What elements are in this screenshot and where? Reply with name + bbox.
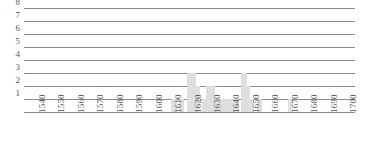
- x-tick-label-1680: 1680: [310, 67, 319, 113]
- histogram-chart: 87654321 1540155015601570158015901600161…: [0, 0, 370, 163]
- x-tick-label-1660: 1660: [271, 67, 280, 113]
- x-axis-tick-labels: 1540155015601570158015901600161016201630…: [24, 113, 355, 163]
- x-tick-label-1550: 1550: [57, 67, 66, 113]
- x-tick-label-1560: 1560: [77, 67, 86, 113]
- bars-group: [24, 8, 355, 112]
- x-tick-label-1650: 1650: [252, 67, 261, 113]
- y-tick-label-5: 5: [0, 37, 20, 46]
- y-tick-label-8: 8: [0, 0, 20, 7]
- x-tick-label-1600: 1600: [155, 67, 164, 113]
- x-tick-label-1690: 1690: [330, 67, 339, 113]
- x-tick-label-1630: 1630: [213, 67, 222, 113]
- x-tick-label-1640: 1640: [232, 67, 241, 113]
- y-tick-label-7: 7: [0, 11, 20, 20]
- x-tick-label-1580: 1580: [116, 67, 125, 113]
- y-tick-label-2: 2: [0, 76, 20, 85]
- x-tick-label-1570: 1570: [96, 67, 105, 113]
- x-tick-label-1670: 1670: [291, 67, 300, 113]
- y-tick-label-1: 1: [0, 89, 20, 98]
- x-tick-label-1540: 1540: [38, 67, 47, 113]
- x-tick-label-1590: 1590: [135, 67, 144, 113]
- x-tick-label-1610: 1610: [174, 67, 183, 113]
- y-tick-label-4: 4: [0, 50, 20, 59]
- y-tick-label-6: 6: [0, 24, 20, 33]
- x-tick-label-1700: 1700: [349, 67, 358, 113]
- x-tick-label-1620: 1620: [194, 67, 203, 113]
- plot-area: [24, 8, 355, 112]
- y-tick-label-3: 3: [0, 63, 20, 72]
